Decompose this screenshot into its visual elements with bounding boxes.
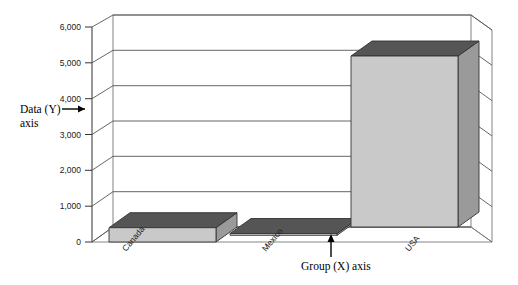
- bar-mexico[interactable]: [230, 219, 358, 236]
- y-axis-annotation-line1: Data (Y): [20, 103, 61, 116]
- x-axis-annotation-text: Group (X) axis: [301, 260, 371, 273]
- bar-usa[interactable]: [351, 41, 479, 227]
- y-axis-annotation: Data (Y) axis: [20, 103, 85, 129]
- ytick-label-6000: 6,000: [60, 22, 82, 32]
- chart-canvas: 6,000 5,000 4,000 3,000 2,000 1,000 0: [0, 0, 518, 285]
- up-arrow-icon: [328, 234, 335, 257]
- right-arrow-icon: [62, 106, 85, 113]
- bar-chart-3d: 6,000 5,000 4,000 3,000 2,000 1,000 0: [0, 0, 518, 285]
- ytick-label-3000: 3,000: [60, 130, 82, 140]
- y-axis-annotation-line2: axis: [20, 117, 39, 129]
- ytick-label-1000: 1,000: [60, 201, 82, 211]
- ytick-label-5000: 5,000: [60, 58, 82, 68]
- ytick-label-4000: 4,000: [60, 94, 82, 104]
- x-axis-annotation: Group (X) axis: [301, 234, 371, 273]
- xtick-label-usa-text: USA: [403, 233, 422, 253]
- xtick-label-usa: USA: [403, 233, 422, 253]
- ytick-label-0: 0: [76, 237, 81, 247]
- ytick-label-2000: 2,000: [60, 165, 82, 175]
